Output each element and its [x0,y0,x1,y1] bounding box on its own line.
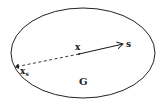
point-x-label: x [75,42,81,52]
direction-s-label: s [126,39,131,49]
diagram-canvas: x s xs G [0,0,160,106]
boundary-point-xs-label: xs [20,66,29,77]
region-g-label: G [79,76,88,87]
point-x-dot [78,53,80,55]
boundary-point-subscript: s [25,70,29,77]
diagram-svg: x s xs G [0,0,160,106]
direction-vector-arrow [79,44,123,54]
